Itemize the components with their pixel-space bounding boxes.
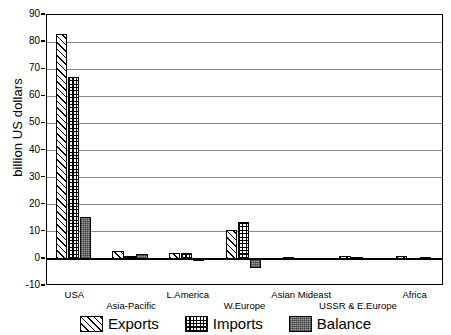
y-axis-tick-mark <box>41 40 45 41</box>
legend-swatch-balance-icon <box>289 316 312 332</box>
y-axis-tick-label: 50 <box>0 117 40 127</box>
y-axis-tick-mark <box>41 203 45 204</box>
bar-exports <box>283 257 294 259</box>
y-axis-tick-label: 30 <box>0 172 40 182</box>
bar-imports <box>68 77 79 259</box>
bar-exports <box>169 253 180 259</box>
bar-balance <box>363 258 374 260</box>
x-axis-category-label: Asia-Pacific <box>81 301 181 311</box>
x-axis-category-label: Africa <box>365 290 451 300</box>
legend-swatch-imports-icon <box>185 316 208 332</box>
bar-group <box>47 15 104 284</box>
x-axis-category-label: W.Europe <box>195 301 295 311</box>
bar-exports <box>226 230 237 258</box>
x-axis-category-label: USSR & E.Europe <box>308 301 408 311</box>
bar-group <box>274 15 331 284</box>
y-axis-tick-mark <box>41 122 45 123</box>
y-axis-tick-label: 0 <box>0 253 40 263</box>
chart-figure: billion US dollars 9080706050403020100-1… <box>0 0 451 335</box>
bar-balance <box>307 258 318 260</box>
y-axis-tick-mark <box>41 257 45 258</box>
bar-group <box>160 15 217 284</box>
bar-balance <box>80 217 91 259</box>
legend-label: Exports <box>108 316 159 332</box>
bar-exports <box>339 256 350 258</box>
bar-group <box>104 15 161 284</box>
legend-item[interactable]: Exports <box>80 316 159 332</box>
bar-group <box>331 15 388 284</box>
bar-group <box>217 15 274 284</box>
bar-group <box>387 15 444 284</box>
y-axis-tick-label: 10 <box>0 226 40 236</box>
bar-imports <box>238 222 249 259</box>
legend-label: Balance <box>317 316 371 332</box>
chart-legend: ExportsImportsBalance <box>0 313 451 335</box>
y-axis-tick-mark <box>41 230 45 231</box>
y-axis-tick-mark <box>41 13 45 14</box>
legend-label: Imports <box>213 316 263 332</box>
y-axis-tick-label: 40 <box>0 145 40 155</box>
plot-area <box>46 14 443 285</box>
bar-exports <box>396 256 407 259</box>
y-axis-tick-mark <box>41 95 45 96</box>
y-axis-tick-mark <box>41 284 45 285</box>
bar-balance <box>420 257 431 259</box>
y-axis-tick-label: 20 <box>0 199 40 209</box>
legend-item[interactable]: Imports <box>185 316 263 332</box>
y-axis-tick-label: 90 <box>0 9 40 19</box>
y-axis-tick-label: 60 <box>0 90 40 100</box>
bar-exports <box>56 34 67 259</box>
y-axis-tick-mark <box>41 149 45 150</box>
x-axis-category-label: L.America <box>138 290 238 300</box>
bar-imports <box>408 258 419 260</box>
y-axis-tick-label: 80 <box>0 36 40 46</box>
bar-balance <box>136 254 147 259</box>
y-axis-tick-label: 70 <box>0 63 40 73</box>
bar-imports <box>124 256 135 259</box>
bar-exports <box>112 251 123 259</box>
y-axis-tick-mark <box>41 68 45 69</box>
x-axis-category-label: USA <box>24 290 124 300</box>
y-axis-tick-label: -10 <box>0 280 40 290</box>
bar-imports <box>351 257 362 259</box>
bar-balance <box>193 259 204 261</box>
bar-imports <box>181 253 192 259</box>
bar-balance <box>250 259 261 268</box>
legend-swatch-exports-icon <box>80 316 103 332</box>
y-axis-tick-mark <box>41 176 45 177</box>
bar-imports <box>295 258 306 260</box>
x-axis-category-label: Asian Mideast <box>251 290 351 300</box>
legend-item[interactable]: Balance <box>289 316 371 332</box>
